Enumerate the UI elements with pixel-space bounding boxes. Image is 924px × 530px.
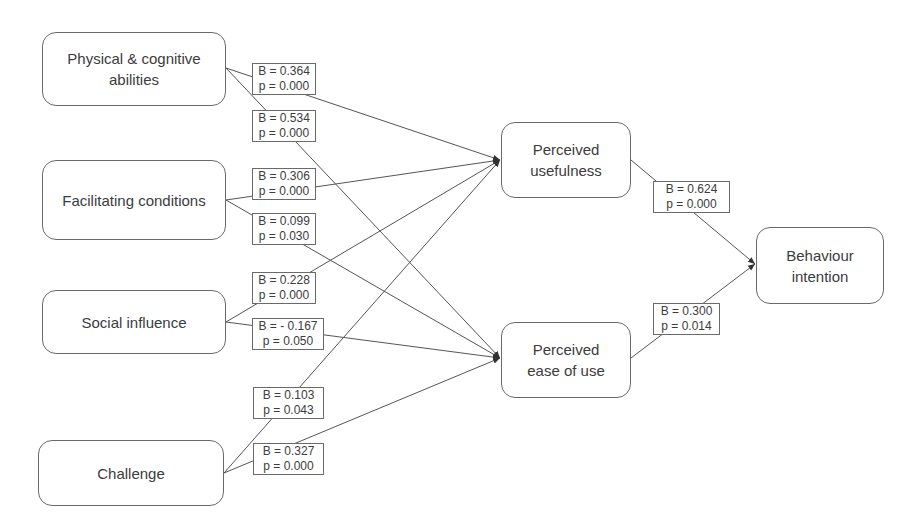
edge-challenge-usefulness (224, 160, 500, 473)
coef-facilitating-ease: B = 0.099p = 0.030 (252, 213, 316, 245)
coef-social-usefulness: B = 0.228p = 0.000 (252, 272, 316, 304)
coef-challenge-ease: B = 0.327p = 0.000 (253, 443, 324, 475)
coef-physical-ease: B = 0.534p = 0.000 (252, 110, 316, 142)
coef-usefulness-intention: B = 0.624p = 0.000 (653, 181, 730, 213)
node-label: Physical & cognitive abilities (49, 48, 219, 90)
node-label: Behaviour intention (775, 245, 865, 287)
node-physical-cognitive-abilities: Physical & cognitive abilities (42, 32, 226, 106)
node-label: Perceived usefulness (521, 139, 611, 181)
coef-ease-intention: B = 0.300p = 0.014 (653, 303, 720, 335)
node-label: Facilitating conditions (62, 190, 205, 211)
node-label: Challenge (97, 463, 165, 484)
node-challenge: Challenge (38, 440, 224, 506)
node-label: Perceived ease of use (516, 339, 616, 381)
coef-challenge-usefulness: B = 0.103p = 0.043 (253, 387, 324, 419)
node-perceived-ease-of-use: Perceived ease of use (501, 322, 631, 398)
node-perceived-usefulness: Perceived usefulness (501, 122, 631, 198)
node-facilitating-conditions: Facilitating conditions (42, 160, 226, 240)
coef-social-ease: B = - 0.167p = 0.050 (252, 318, 324, 350)
coef-physical-usefulness: B = 0.364p = 0.000 (252, 63, 316, 95)
node-social-influence: Social influence (42, 290, 226, 354)
node-label: Social influence (81, 312, 186, 333)
coef-facilitating-usefulness: B = 0.306p = 0.000 (252, 168, 316, 200)
node-behaviour-intention: Behaviour intention (756, 227, 884, 304)
